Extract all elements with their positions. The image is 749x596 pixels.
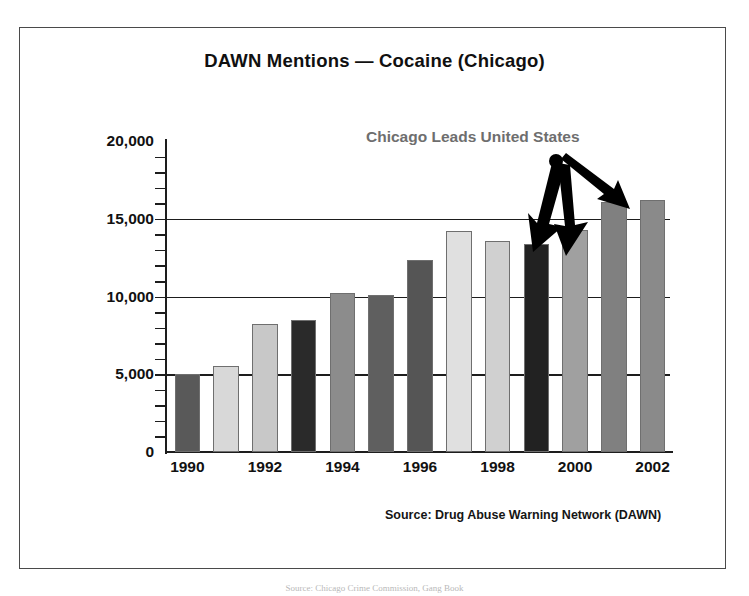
bar-1994 xyxy=(330,293,356,452)
chart-page: DAWN Mentions — Cocaine (Chicago) 05,000… xyxy=(0,0,749,596)
bar-1993 xyxy=(291,320,317,452)
bar-1990 xyxy=(175,374,201,452)
x-axis-label-1998: 1998 xyxy=(480,458,514,476)
x-axis-label-1992: 1992 xyxy=(248,458,282,476)
chart-annotation-label: Chicago Leads United States xyxy=(366,128,580,146)
bar-2000 xyxy=(562,230,588,452)
y-axis-label-0: 0 xyxy=(145,443,154,461)
bar-2001 xyxy=(601,202,627,452)
y-axis-label-20000: 20,000 xyxy=(107,132,154,150)
y-axis-label-10000: 10,000 xyxy=(107,288,154,306)
bar-1999 xyxy=(524,244,550,452)
x-axis-label-1996: 1996 xyxy=(403,458,437,476)
y-axis-label-15000: 15,000 xyxy=(107,210,154,228)
figure-caption: Source: Chicago Crime Commission, Gang B… xyxy=(0,583,749,593)
bar-1997 xyxy=(446,231,472,452)
y-axis-label-5000: 5,000 xyxy=(115,365,154,383)
gridline-15000 xyxy=(166,219,670,221)
bar-1998 xyxy=(485,241,511,452)
x-axis-label-2000: 2000 xyxy=(558,458,592,476)
y-axis-labels: 05,00010,00015,00020,000 xyxy=(62,0,154,596)
x-axis-label-2002: 2002 xyxy=(635,458,669,476)
bar-1996 xyxy=(407,260,433,452)
x-axis-label-1990: 1990 xyxy=(170,458,204,476)
bar-1995 xyxy=(368,295,394,452)
x-axis-label-1994: 1994 xyxy=(325,458,359,476)
bar-1992 xyxy=(252,324,278,452)
source-note: Source: Drug Abuse Warning Network (DAWN… xyxy=(385,508,661,522)
x-axis-labels: 1990199219941996199820002002 xyxy=(166,458,670,484)
bar-1991 xyxy=(213,366,239,452)
bar-2002 xyxy=(640,200,666,452)
plot-area xyxy=(166,141,670,452)
